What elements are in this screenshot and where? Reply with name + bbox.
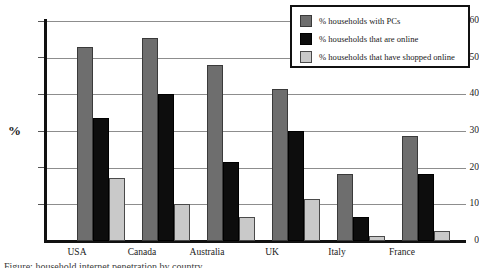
legend-item: % households that are online <box>300 30 462 48</box>
bar-chart-figure: % 60 50 40 30 20 10 0 USA Canada Austral… <box>0 0 479 268</box>
bar-australia-series-0 <box>207 65 223 241</box>
legend-item-label: % households that have shopped online <box>319 53 455 62</box>
bar-france-series-0 <box>402 136 418 241</box>
cropped-caption-text: Figure: household internet penetration b… <box>4 261 479 268</box>
bar-usa-series-0 <box>77 47 93 241</box>
bar-canada-series-2 <box>174 204 190 241</box>
bar-usa-series-2 <box>109 178 125 241</box>
bar-canada-series-0 <box>142 38 158 242</box>
x-category-label: France <box>362 247 442 257</box>
bar-usa-series-1 <box>93 118 109 241</box>
bar-italy-series-1 <box>353 217 369 241</box>
bar-uk-series-0 <box>272 89 288 241</box>
bar-uk-series-1 <box>288 131 304 241</box>
legend-item: % households that have shopped online <box>300 48 462 66</box>
bar-italy-series-2 <box>369 236 385 241</box>
bar-uk-series-2 <box>304 199 320 241</box>
bar-france-series-2 <box>434 231 450 241</box>
cropped-caption: Figure: household internet penetration b… <box>0 261 479 268</box>
bar-france-series-1 <box>418 174 434 241</box>
bar-australia-series-2 <box>239 217 255 241</box>
chart-legend: % households with PCs % households that … <box>290 5 470 68</box>
legend-item-label: % households that are online <box>319 35 418 44</box>
legend-item-label: % households with PCs <box>319 17 400 26</box>
bar-australia-series-1 <box>223 162 239 241</box>
y-axis-title: % <box>8 123 21 139</box>
bar-italy-series-0 <box>337 174 353 241</box>
bar-canada-series-1 <box>158 94 174 241</box>
legend-swatch-icon <box>300 15 312 27</box>
legend-swatch-icon <box>300 51 312 63</box>
legend-item: % households with PCs <box>300 12 462 30</box>
legend-swatch-icon <box>300 33 312 45</box>
